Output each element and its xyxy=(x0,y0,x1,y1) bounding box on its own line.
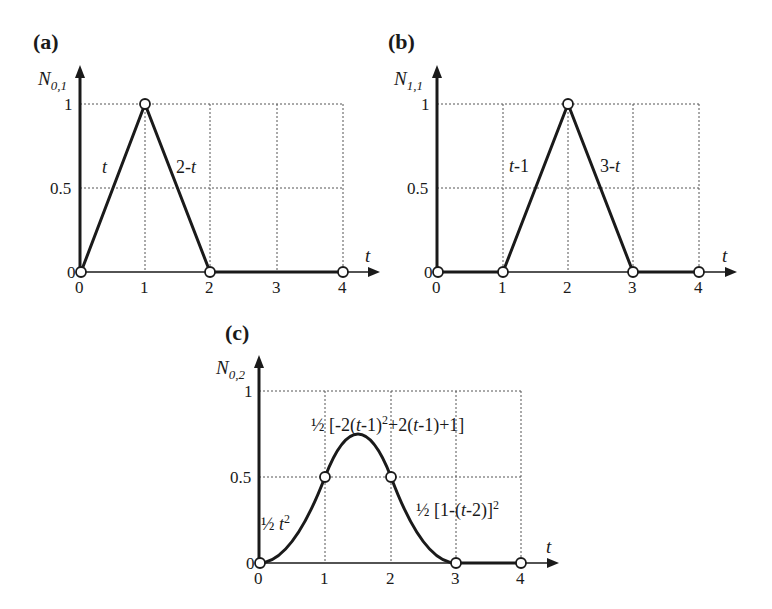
panel-c-xtick-1: 1 xyxy=(320,569,329,588)
panel-b-knot xyxy=(694,267,704,277)
panel-a-xtick-4: 4 xyxy=(338,278,347,297)
panel-c-ytick-05: 0.5 xyxy=(230,468,251,487)
panel-b-annotation-3-t: 3-t xyxy=(600,156,621,176)
panel-a-xtick-3: 3 xyxy=(272,278,281,297)
panel-a-knot xyxy=(140,99,150,109)
panel-a-ytick-05: 0.5 xyxy=(50,179,71,198)
panel-b: (b) N1,1 t 1 0.5 0 0 1 2 3 4 t-1 3-t xyxy=(388,29,737,297)
panel-a-xtick-0: 0 xyxy=(75,278,84,297)
panel-b-knot xyxy=(563,99,573,109)
panel-a-knot xyxy=(76,267,86,277)
panel-b-xtick-4: 4 xyxy=(694,278,703,297)
panel-a-ytick-1: 1 xyxy=(64,95,73,114)
panel-b-y-label: N1,1 xyxy=(393,68,423,93)
panel-c-label: (c) xyxy=(225,320,249,345)
panel-a-knot xyxy=(338,267,348,277)
panel-c-xtick-2: 2 xyxy=(386,569,395,588)
panel-c-annotation-middle: ½ [-2(t-1)2+2(t-1)+1] xyxy=(311,413,464,436)
panel-a-annotation-t: t xyxy=(102,157,108,177)
panel-a-knot xyxy=(205,267,215,277)
panel-a-label: (a) xyxy=(33,29,59,54)
panel-b-xtick-1: 1 xyxy=(498,278,507,297)
panel-a-xtick-2: 2 xyxy=(205,278,214,297)
panel-c-knot xyxy=(320,472,330,482)
panel-c-knot xyxy=(451,558,461,568)
panel-b-x-arrow-icon xyxy=(725,267,737,277)
panel-a-y-arrow-icon xyxy=(75,65,85,78)
panel-c-x-label: t xyxy=(546,536,552,557)
panel-b-annotation-t-1: t-1 xyxy=(509,156,529,176)
panel-c: (c) N0,2 t 1 0.5 0 0 1 2 3 4 ½ t2 ½ [-2( xyxy=(215,320,559,588)
panel-b-y-arrow-icon xyxy=(432,65,442,78)
panel-c-xtick-4: 4 xyxy=(516,569,525,588)
panel-b-x-label: t xyxy=(722,245,728,266)
panel-a-annotation-2-t: 2-t xyxy=(176,157,197,177)
figure-canvas: (a) N0,1 t 1 0.5 0 0 1 2 3 4 xyxy=(0,0,772,609)
panel-c-knot xyxy=(516,558,526,568)
panel-b-xtick-2: 2 xyxy=(563,278,572,297)
panel-c-xtick-0: 0 xyxy=(254,569,263,588)
panel-b-xtick-3: 3 xyxy=(628,278,637,297)
panel-c-y-label: N0,2 xyxy=(215,357,245,382)
panel-b-xtick-0: 0 xyxy=(432,278,441,297)
panel-b-ytick-05: 0.5 xyxy=(407,179,428,198)
panel-a-y-label: N0,1 xyxy=(37,68,67,93)
panel-c-annotation-left: ½ t2 xyxy=(261,512,290,534)
panel-b-label: (b) xyxy=(388,29,415,54)
panel-b-ytick-1: 1 xyxy=(421,95,430,114)
panel-c-annotation-right: ½ [1-(t-2)]2 xyxy=(416,498,499,521)
panel-c-ytick-1: 1 xyxy=(244,382,253,401)
panel-c-knot xyxy=(255,558,265,568)
panel-a-x-label: t xyxy=(365,245,371,266)
panel-b-knot xyxy=(628,267,638,277)
panel-c-knot xyxy=(386,472,396,482)
panel-b-grid xyxy=(437,104,699,272)
panel-a: (a) N0,1 t 1 0.5 0 0 1 2 3 4 xyxy=(33,29,380,297)
panel-a-xtick-1: 1 xyxy=(140,278,149,297)
panel-a-x-arrow-icon xyxy=(368,267,380,277)
panel-a-grid xyxy=(80,104,343,272)
panel-c-x-arrow-icon xyxy=(547,558,559,568)
panel-c-y-arrow-icon xyxy=(254,355,264,368)
panel-b-knot xyxy=(433,267,443,277)
panel-c-curve xyxy=(259,434,521,563)
panel-c-xtick-3: 3 xyxy=(451,569,460,588)
panel-b-knot xyxy=(498,267,508,277)
